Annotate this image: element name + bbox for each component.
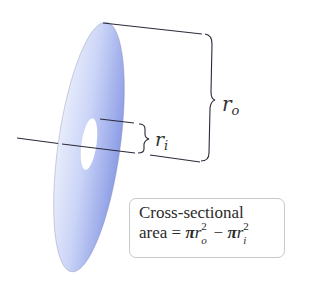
outer-top-line — [103, 23, 202, 34]
caption-line-2: area = πr2o − πr2i — [139, 223, 284, 243]
area-equals: area = — [139, 223, 185, 242]
axis-line-left — [17, 138, 62, 144]
pi-symbol: π — [185, 223, 194, 242]
outer-bottom-line — [150, 155, 200, 162]
r-inner: r — [237, 223, 244, 242]
exp-outer: 2o — [201, 228, 209, 238]
minus-sign: − — [209, 223, 227, 242]
outer-radius-label: ro — [222, 92, 240, 118]
r-outer: r — [195, 223, 202, 242]
cross-section-area-caption: Cross-sectional area = πr2o − πr2i — [129, 198, 285, 258]
inner-radius-brace — [138, 124, 149, 153]
outer-radius-brace — [201, 34, 215, 161]
exp-inner: 2i — [243, 228, 251, 238]
caption-line-1: Cross-sectional — [139, 203, 284, 223]
pi-symbol-2: π — [227, 223, 236, 242]
inner-radius-label: ri — [155, 128, 168, 153]
